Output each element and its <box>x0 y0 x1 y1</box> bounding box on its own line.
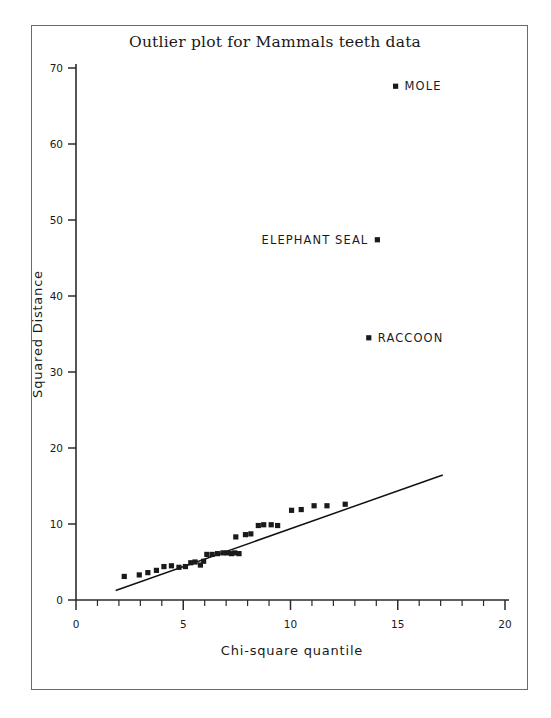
data-point-marker <box>243 532 248 537</box>
reference-line <box>116 475 443 591</box>
data-point-marker <box>256 523 261 528</box>
data-point-marker <box>289 508 294 513</box>
data-point-marker <box>137 572 142 577</box>
x-tick-label: 5 <box>180 618 187 630</box>
data-point-marker <box>169 563 174 568</box>
data-point-marker <box>215 551 220 556</box>
y-axis-ticks: 010203040506070 <box>50 62 76 606</box>
reference-line-segment <box>116 475 443 591</box>
outlier-point-label: ELEPHANT SEAL <box>262 233 369 247</box>
y-tick-label: 0 <box>56 594 63 606</box>
outlier-point-marker <box>375 237 380 242</box>
data-point-marker <box>204 552 209 557</box>
data-point-marker <box>201 559 206 564</box>
data-point-marker <box>233 534 238 539</box>
data-point-marker <box>176 565 181 570</box>
outlier-scatter-plot: Outlier plot for Mammals teeth data 0102… <box>0 0 551 718</box>
y-tick-label: 60 <box>50 138 63 150</box>
outlier-point-label: MOLE <box>405 79 442 93</box>
y-tick-label: 20 <box>50 442 63 454</box>
data-point-marker <box>269 522 274 527</box>
x-axis-title: Chi-square quantile <box>221 643 363 658</box>
data-point-marker <box>161 564 166 569</box>
y-tick-label: 10 <box>50 518 63 530</box>
data-point-marker <box>261 522 266 527</box>
y-tick-label: 70 <box>50 62 63 74</box>
data-point-marker <box>324 503 329 508</box>
data-point-marker <box>183 564 188 569</box>
y-tick-label: 50 <box>50 214 63 226</box>
chart-title: Outlier plot for Mammals teeth data <box>129 33 421 51</box>
figure-container: Outlier plot for Mammals teeth data 0102… <box>0 0 551 718</box>
outlier-point-marker <box>393 84 398 89</box>
labeled-outlier-points: MOLEELEPHANT SEALRACCOON <box>262 79 444 345</box>
data-point-marker <box>210 552 215 557</box>
y-axis-title: Squared Distance <box>30 270 45 398</box>
data-point-marker <box>311 503 316 508</box>
data-point-marker <box>145 570 150 575</box>
data-point-marker <box>343 502 348 507</box>
data-point-marker <box>275 523 280 528</box>
scatter-points <box>122 502 348 579</box>
data-point-marker <box>154 568 159 573</box>
data-point-marker <box>299 507 304 512</box>
y-tick-label: 40 <box>50 290 63 302</box>
outlier-point-marker <box>366 335 371 340</box>
x-tick-label: 20 <box>498 618 511 630</box>
data-point-marker <box>236 551 241 556</box>
data-point-marker <box>122 574 127 579</box>
x-tick-label: 0 <box>73 618 80 630</box>
x-tick-label: 15 <box>391 618 404 630</box>
x-tick-label: 10 <box>284 618 297 630</box>
data-point-marker <box>248 531 253 536</box>
x-axis-ticks: 05101520 <box>73 600 512 630</box>
outlier-point-label: RACCOON <box>378 331 444 345</box>
y-tick-label: 30 <box>50 366 63 378</box>
data-point-marker <box>192 559 197 564</box>
